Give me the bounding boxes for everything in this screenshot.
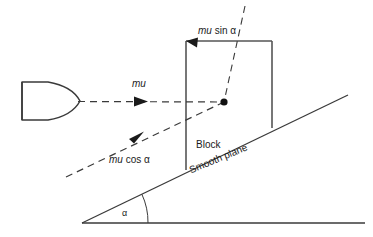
- label-block: Block: [196, 140, 220, 150]
- label-mu-cos-upright: cos α: [123, 154, 150, 165]
- mu-sin-arrowhead-icon: [186, 38, 198, 48]
- physics-diagram: mu mu sin α mu cos α Block Smooth plane …: [0, 0, 373, 237]
- mu-arrowhead-icon: [134, 97, 148, 107]
- label-mu-sin-italic: mu: [198, 25, 212, 36]
- normal-component-vector: [186, 6, 245, 102]
- label-incline-angle: α: [122, 209, 127, 218]
- label-mu-cos-alpha: mu cos α: [109, 155, 150, 165]
- label-mu-sin-upright: sin α: [212, 25, 236, 36]
- mu-sin-corner-connector: [186, 41, 224, 102]
- label-mu-italic: mu: [132, 78, 146, 89]
- diagram-canvas: [0, 0, 373, 237]
- mu-sin-dashed-line: [224, 6, 245, 102]
- mu-dashed-line: [78, 102, 224, 103]
- angle-arc: [142, 194, 148, 223]
- mu-cos-arrowhead-icon: [129, 132, 144, 144]
- label-mu-cos-italic: mu: [109, 154, 123, 165]
- momentum-vector-mu: [78, 97, 224, 107]
- label-mu: mu: [132, 79, 146, 89]
- projectile-shape: [22, 82, 80, 120]
- label-mu-sin-alpha: mu sin α: [198, 26, 236, 36]
- impact-point-dot: [220, 98, 227, 105]
